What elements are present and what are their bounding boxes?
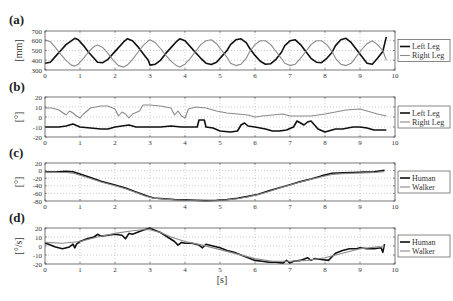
- x-tick-label: 0: [43, 139, 47, 147]
- panel-d: (d)012345678910-20-1001020[°/s]HumanWalk…: [9, 210, 450, 285]
- y-tick-label: 300: [32, 67, 43, 75]
- x-tick-label: 3: [148, 139, 152, 147]
- series-line-right-leg: [45, 105, 386, 118]
- x-tick-label: 2: [113, 203, 117, 211]
- series-line-human: [45, 228, 385, 263]
- y-tick-label: 500: [32, 47, 43, 55]
- x-tick-label: 7: [288, 72, 292, 80]
- legend: Left LegRight Leg: [398, 106, 450, 128]
- y-tick-label: 20: [35, 160, 43, 168]
- legend-label: Left Leg: [412, 42, 440, 51]
- y-tick-label: 10: [35, 234, 43, 242]
- legend-label: Human: [412, 238, 436, 247]
- panel-c: (c)012345678910-80-60-40-20020[°]HumanWa…: [9, 145, 450, 211]
- y-tick-label: 20: [35, 225, 43, 233]
- x-tick-label: 2: [113, 72, 117, 80]
- x-tick-label: 9: [358, 72, 362, 80]
- y-tick-label: 700: [32, 28, 43, 36]
- legend: HumanWalker: [398, 235, 450, 257]
- x-tick-label: 2: [113, 266, 117, 274]
- x-tick-label: 8: [323, 203, 327, 211]
- panel-label: (c): [9, 145, 23, 160]
- panel-b: (b)012345678910-20-1001020[°]Left LegRig…: [9, 79, 450, 147]
- y-tick-label: -10: [33, 252, 43, 260]
- x-tick-label: 10: [392, 266, 400, 274]
- x-tick-label: 8: [323, 139, 327, 147]
- x-tick-label: 4: [183, 72, 187, 80]
- x-tick-label: 9: [358, 203, 362, 211]
- y-tick-label: -10: [33, 124, 43, 132]
- y-tick-label: -60: [33, 190, 43, 198]
- x-tick-label: 4: [183, 266, 187, 274]
- x-tick-label: 8: [323, 72, 327, 80]
- y-axis-label: [°/s]: [13, 237, 24, 254]
- x-tick-label: 9: [358, 139, 362, 147]
- x-tick-label: 7: [288, 266, 292, 274]
- y-tick-label: 0: [39, 167, 43, 175]
- x-tick-label: 5: [218, 72, 222, 80]
- x-tick-label: 8: [323, 266, 327, 274]
- legend-label: Human: [412, 174, 436, 183]
- x-tick-label: 6: [253, 266, 257, 274]
- y-tick-label: 10: [35, 104, 43, 112]
- panel-label: (d): [9, 210, 25, 225]
- panel-label: (a): [9, 12, 24, 27]
- x-tick-label: 3: [148, 266, 152, 274]
- x-tick-label: 10: [392, 72, 400, 80]
- x-tick-label: 1: [78, 72, 82, 80]
- x-tick-label: 10: [392, 203, 400, 211]
- x-tick-label: 1: [78, 266, 82, 274]
- series-line-left-leg: [45, 120, 386, 132]
- y-tick-label: -40: [33, 182, 43, 190]
- x-tick-label: 5: [218, 139, 222, 147]
- x-tick-label: 0: [43, 72, 47, 80]
- legend: Left LegRight Leg: [398, 40, 450, 62]
- series-line-left-leg: [45, 37, 386, 65]
- y-axis-label: [°]: [13, 177, 24, 188]
- x-tick-label: 10: [392, 139, 400, 147]
- y-tick-label: 400: [32, 57, 43, 65]
- x-tick-label: 6: [253, 203, 257, 211]
- x-tick-label: 5: [218, 266, 222, 274]
- x-tick-label: 3: [148, 203, 152, 211]
- panel-label: (b): [9, 79, 25, 94]
- legend: HumanWalker: [398, 171, 450, 193]
- x-tick-label: 6: [253, 139, 257, 147]
- y-tick-label: 600: [32, 37, 43, 45]
- x-tick-label: 0: [43, 203, 47, 211]
- series-line-walker: [45, 172, 385, 201]
- x-tick-label: 4: [183, 139, 187, 147]
- x-tick-label: 4: [183, 203, 187, 211]
- x-tick-label: 0: [43, 266, 47, 274]
- y-tick-label: 20: [35, 94, 43, 102]
- x-tick-label: 7: [288, 139, 292, 147]
- y-tick-label: -80: [33, 198, 43, 206]
- x-tick-label: 1: [78, 139, 82, 147]
- y-axis-label: [°]: [13, 112, 24, 123]
- panel-a: (a)012345678910300400500600700[mm]Left L…: [9, 12, 450, 80]
- legend-label: Walker: [412, 183, 435, 192]
- legend-label: Walker: [412, 247, 435, 256]
- y-tick-label: -20: [33, 175, 43, 183]
- figure: (a)012345678910300400500600700[mm]Left L…: [0, 0, 453, 301]
- x-axis-label: [s]: [217, 274, 228, 285]
- x-tick-label: 2: [113, 139, 117, 147]
- x-tick-label: 5: [218, 203, 222, 211]
- x-tick-label: 7: [288, 203, 292, 211]
- x-tick-label: 9: [358, 266, 362, 274]
- y-tick-label: 0: [39, 243, 43, 251]
- legend-label: Left Leg: [412, 109, 440, 118]
- legend-label: Right Leg: [412, 118, 444, 127]
- x-tick-label: 3: [148, 72, 152, 80]
- y-tick-label: -20: [33, 134, 43, 142]
- y-tick-label: 0: [39, 114, 43, 122]
- x-tick-label: 1: [78, 203, 82, 211]
- y-axis-label: [mm]: [13, 39, 24, 61]
- legend-label: Right Leg: [412, 51, 444, 60]
- x-tick-label: 6: [253, 72, 257, 80]
- y-tick-label: -20: [33, 261, 43, 269]
